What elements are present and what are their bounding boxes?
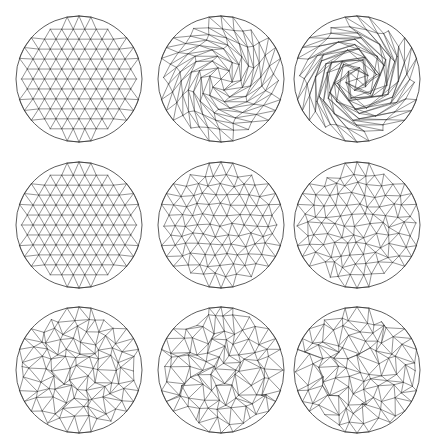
mesh-panel-r2c2 [158, 162, 284, 288]
mesh-edges [19, 16, 138, 142]
circle-boundary [294, 307, 420, 433]
mesh-edges [19, 307, 138, 433]
mesh-edges [295, 307, 416, 433]
mesh-panel-r3c2 [158, 307, 284, 433]
mesh-panel-r1c1 [16, 16, 142, 142]
mesh-edges [161, 16, 280, 142]
mesh-panel-r2c3 [294, 162, 420, 288]
mesh-edges [161, 162, 280, 288]
mesh-figure [0, 0, 432, 446]
mesh-edges [297, 16, 416, 142]
mesh-panel-r3c3 [294, 307, 420, 433]
mesh-edges [161, 307, 283, 433]
mesh-panel-r1c3 [294, 16, 420, 142]
mesh-edges [19, 162, 138, 288]
mesh-panel-r2c1 [16, 162, 142, 288]
mesh-panel-r3c1 [16, 307, 142, 433]
mesh-edges [297, 162, 416, 288]
mesh-panel-r1c2 [158, 16, 284, 142]
